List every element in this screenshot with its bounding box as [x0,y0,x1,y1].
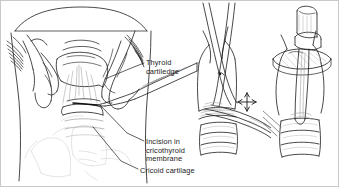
larynx-left [198,63,200,111]
label-cricoid-line1: Cricoid cartilage [140,167,195,176]
tube-connector [295,6,321,50]
label-thyroid-line2: cartiledge [146,68,179,77]
leader-incision [100,105,144,141]
scissors [203,3,237,107]
shading-tuft-right [125,35,144,67]
leader-lines [93,63,144,169]
medical-illustration-figure: Thyroid cartiledge Incision in cricothyr… [0,0,339,187]
leader-thyroid [105,63,144,79]
panel-mid-artwork [189,1,271,187]
label-cricoid-cartilage: Cricoid cartilage [140,167,195,176]
left-hand [23,35,59,108]
leader-cricoid [93,127,138,169]
larynx-left [276,67,279,115]
cricothyroid-membrane [67,99,100,101]
thyroid-cartilage-outline [57,52,107,65]
jaw-contour [15,7,147,31]
panel-left: Thyroid cartiledge Incision in cricothyr… [1,1,201,187]
label-incision-line3: membrane [146,155,185,164]
tracheal-rings [200,122,238,155]
label-incision: Incision in cricothyroid membrane [146,138,185,164]
incision-line [73,103,97,105]
label-thyroid-cartilage: Thyroid cartiledge [146,59,179,76]
edge-strokes [263,111,281,136]
tracheostomy-tube [291,49,311,124]
ghosted-clavicles [25,116,131,180]
panel-mid [189,1,271,187]
panel-right-artwork [263,1,339,187]
panel-right [263,1,339,187]
movement-arrow-cross [238,93,256,111]
